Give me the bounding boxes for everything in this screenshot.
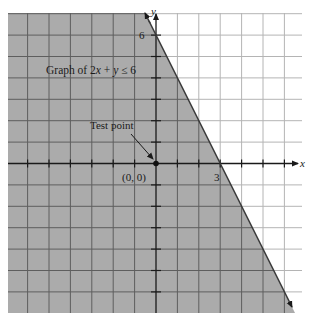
y-intercept-label: 6 bbox=[139, 29, 145, 41]
y-axis-label: y bbox=[150, 5, 156, 17]
graph-title: Graph of 2x + y ≤ 6 bbox=[46, 64, 136, 77]
x-axis-label: x bbox=[299, 157, 305, 169]
origin-label: (0, 0) bbox=[122, 171, 146, 184]
inequality-graph: Graph of 2x + y ≤ 6 Test point (0, 0) 3 … bbox=[0, 0, 312, 321]
test-point-dot bbox=[153, 161, 159, 167]
test-point-label: Test point bbox=[90, 119, 134, 131]
x-intercept-label: 3 bbox=[214, 171, 220, 183]
